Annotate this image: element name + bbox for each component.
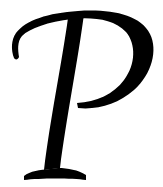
letter-p-serif <box>24 168 86 180</box>
glyph-canvas: P <box>0 0 163 187</box>
letter-p-icon <box>0 0 163 187</box>
letter-p-stem <box>44 14 84 170</box>
letter-p-bowl <box>12 11 154 109</box>
